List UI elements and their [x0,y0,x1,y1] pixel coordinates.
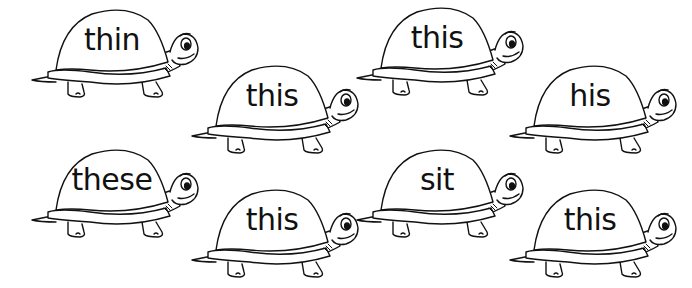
turtle-word: these [60,160,164,200]
turtle-card: this [190,62,360,154]
turtle-word: sit [385,160,489,200]
turtle-card: thin [30,6,200,98]
turtle-word: this [385,18,489,58]
turtle-card: sit [355,146,525,238]
turtle-card: these [30,146,200,238]
turtle-card: this [190,186,360,278]
turtle-card: this [508,186,678,278]
turtle-word: thin [60,20,164,60]
turtle-card: his [508,62,678,154]
turtle-card: this [355,4,525,96]
turtle-word: this [220,200,324,240]
turtle-word: this [538,200,642,240]
turtle-word: this [220,76,324,116]
turtle-word: his [538,76,642,116]
